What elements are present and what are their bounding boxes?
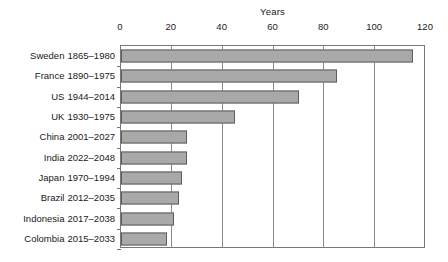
category-label-us: US1944–2014 [51,90,115,101]
category-country: Sweden [30,50,64,61]
category-country: Colombia [24,232,64,243]
x-tick-label-80: 80 [318,21,329,32]
category-period: 1865–1980 [67,50,115,61]
category-tick-4 [117,148,121,149]
category-tick-8 [117,229,121,230]
bar-sweden [121,50,413,63]
x-tick-label-60: 60 [267,21,278,32]
category-period: 1890–1975 [67,70,115,81]
category-tick-3 [117,127,121,128]
bar-japan [121,171,182,184]
x-axis-tick-labels: 020406080100120 [0,21,448,35]
category-country: France [35,70,65,81]
bar-colombia [121,232,167,245]
category-tick-2 [117,107,121,108]
bar-france [121,70,337,83]
category-period: 1944–2014 [67,90,115,101]
category-label-india: India2022–2048 [44,151,115,162]
category-label-brazil: Brazil2012–2035 [41,192,115,203]
x-tick-label-0: 0 [117,21,122,32]
category-tick-7 [117,208,121,209]
category-country: Indonesia [23,212,64,223]
bar-china [121,131,187,144]
category-period: 2015–2033 [67,232,115,243]
bar-india [121,151,187,164]
category-period: 1970–1994 [67,171,115,182]
bar-us [121,90,299,103]
category-country: India [44,151,65,162]
x-tick-label-40: 40 [216,21,227,32]
category-label-uk: UK1930–1975 [51,111,115,122]
x-tick-label-120: 120 [417,21,433,32]
bar-indonesia [121,212,174,225]
category-label-indonesia: Indonesia2017–2038 [23,212,115,223]
category-country: Brazil [41,192,65,203]
category-label-japan: Japan1970–1994 [39,171,115,182]
category-country: China [40,131,65,142]
category-label-colombia: Colombia2015–2033 [24,232,115,243]
y-axis-category-labels: Sweden1865–1980France1890–1975US1944–201… [0,45,118,248]
category-period: 2022–2048 [67,151,115,162]
category-label-france: France1890–1975 [35,70,115,81]
x-axis-title: Years [120,6,425,17]
gridline-100 [374,46,375,247]
x-tick-label-100: 100 [366,21,382,32]
category-tick-6 [117,188,121,189]
plot-area [120,45,425,248]
category-country: US [51,90,64,101]
category-tick-1 [117,87,121,88]
category-tick-9 [117,249,121,250]
category-period: 1930–1975 [67,111,115,122]
category-period: 2001–2027 [67,131,115,142]
category-country: UK [51,111,64,122]
category-label-china: China2001–2027 [40,131,115,142]
category-country: Japan [39,171,65,182]
category-label-sweden: Sweden1865–1980 [30,50,115,61]
category-tick-5 [117,168,121,169]
category-period: 2017–2038 [67,212,115,223]
bar-brazil [121,192,179,205]
x-tick-label-20: 20 [166,21,177,32]
bar-chart: Years 020406080100120 Sweden1865–1980Fra… [0,0,448,262]
bar-uk [121,111,235,124]
category-period: 2012–2035 [67,192,115,203]
category-tick-0 [117,66,121,67]
